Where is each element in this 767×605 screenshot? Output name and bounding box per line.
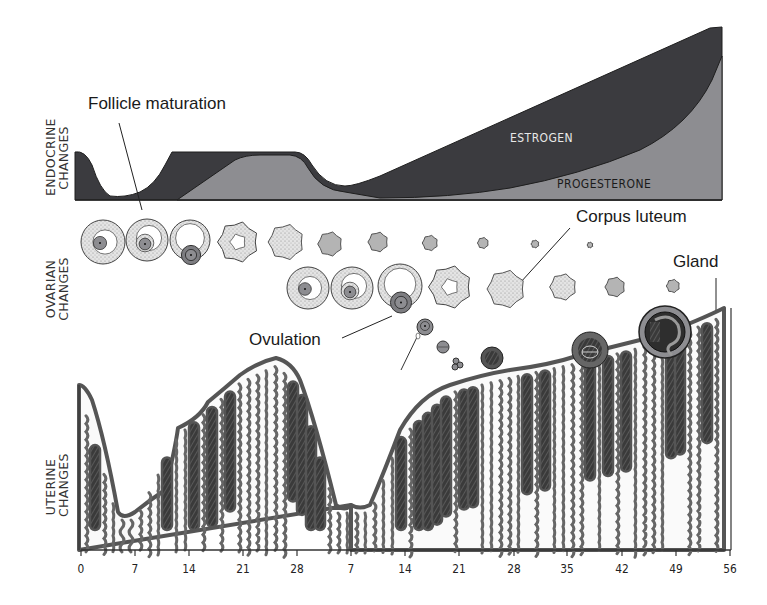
- blood-vessel-icon: [248, 379, 250, 555]
- gland-annotation: Gland: [673, 252, 718, 272]
- x-axis-tick-label: 14: [182, 561, 196, 576]
- blood-vessel-icon: [563, 367, 564, 551]
- follicle-cl: [477, 238, 488, 249]
- x-axis-tick-label: 14: [398, 561, 412, 576]
- follicle-cl: [531, 240, 539, 248]
- follicle-cl: [666, 279, 679, 292]
- blood-vessel-icon: [266, 371, 267, 555]
- blood-vessel-icon: [257, 375, 259, 551]
- follicle-ruptured: [429, 266, 470, 308]
- follicle-cl: [268, 225, 302, 260]
- blood-vessel-icon: [689, 331, 691, 555]
- blood-vessel-icon: [176, 440, 177, 552]
- follicle-cl: [318, 232, 341, 256]
- gland-icon: [441, 397, 451, 517]
- gland-icon: [396, 437, 406, 530]
- gland-icon: [162, 457, 172, 530]
- follicle-cl: [487, 270, 523, 307]
- ovulated-egg: [401, 319, 463, 370]
- follicle-follicle3: [378, 264, 422, 313]
- follicle-maturation-annotation: Follicle maturation: [88, 94, 226, 114]
- follicle-cl: [368, 232, 387, 252]
- gland-icon: [189, 422, 199, 530]
- ovulation-leader: [342, 316, 392, 338]
- x-axis-tick-label: 0: [78, 561, 85, 576]
- ovarian-label-line2: CHANGES: [57, 253, 70, 325]
- blood-vessel-icon: [500, 381, 502, 557]
- gland-icon: [90, 445, 100, 530]
- blood-vessel-icon: [374, 503, 376, 551]
- follicle-cl: [550, 274, 576, 300]
- blood-vessel-icon: [599, 358, 600, 550]
- blood-vessel-icon: [347, 513, 348, 553]
- gland-icon: [540, 371, 550, 491]
- follicle-follicle2: [126, 219, 168, 261]
- blood-vessel-icon: [635, 349, 636, 557]
- gland-icon: [603, 356, 613, 476]
- x-axis-tick-label: 7: [348, 561, 355, 576]
- diagram-canvas: [0, 0, 767, 605]
- ovarian-follicles: [81, 219, 679, 313]
- ovarian-section-label: OVARIAN CHANGES: [44, 253, 70, 325]
- blood-vessel-icon: [383, 481, 384, 553]
- menstrual-cycle-diagram: ENDOCRINE CHANGES OVARIAN CHANGES UTERIN…: [0, 0, 767, 605]
- blood-vessel-icon: [518, 376, 519, 552]
- endocrine-label-line2: CHANGES: [57, 120, 70, 196]
- blood-vessel-icon: [509, 378, 511, 554]
- blood-vessel-icon: [365, 513, 366, 553]
- gland-icon: [315, 457, 325, 530]
- follicle-follicle2: [331, 267, 373, 309]
- x-axis-tick-label: 28: [290, 561, 304, 576]
- x-axis-tick-label: 35: [560, 561, 574, 576]
- gland-icon: [585, 361, 595, 481]
- gland-icon: [468, 387, 478, 507]
- corpus-luteum-annotation: Corpus luteum: [576, 207, 687, 227]
- blood-vessel-icon: [455, 392, 457, 552]
- blood-vessel-icon: [581, 363, 583, 555]
- blood-vessel-icon: [392, 458, 393, 554]
- gland-icon: [702, 323, 712, 443]
- uterine-endometrium: [79, 306, 731, 557]
- endocrine-section-label: ENDOCRINE CHANGES: [44, 120, 70, 196]
- blood-vessel-icon: [572, 365, 574, 557]
- progesterone-label: PROGESTERONE: [557, 177, 651, 191]
- blood-vessel-icon: [698, 327, 700, 551]
- blood-vessel-icon: [410, 429, 412, 557]
- blood-vessel-icon: [491, 383, 492, 551]
- blood-vessel-icon: [338, 513, 340, 553]
- x-axis-tick-label: 21: [236, 561, 250, 576]
- gland-icon: [522, 374, 532, 494]
- uterine-label-line2: CHANGES: [57, 457, 70, 517]
- blood-vessel-icon: [554, 369, 555, 553]
- x-axis-tick-label: 21: [452, 561, 466, 576]
- blood-vessel-icon: [644, 347, 646, 555]
- x-axis-tick-label: 42: [615, 561, 629, 576]
- ovulation-annotation: Ovulation: [249, 330, 321, 350]
- blood-vessel-icon: [158, 475, 159, 555]
- follicle-ruptured: [218, 222, 257, 262]
- gland-icon: [207, 407, 217, 527]
- x-axis-tick-label: 28: [507, 561, 521, 576]
- follicle-cl: [605, 277, 624, 297]
- follicle-cl: [422, 235, 437, 250]
- blood-vessel-icon: [185, 430, 186, 550]
- gland-icon: [225, 392, 235, 512]
- blood-vessel-icon: [662, 342, 663, 550]
- follicle-follicle: [81, 220, 125, 264]
- blood-vessel-icon: [113, 504, 114, 552]
- blood-vessel-icon: [149, 493, 151, 557]
- blood-vessel-icon: [482, 385, 483, 553]
- follicle-cl: [587, 242, 593, 248]
- blood-vessel-icon: [653, 345, 655, 553]
- gland-icon: [621, 352, 631, 472]
- x-axis-tick-label: 7: [132, 561, 139, 576]
- uterine-section-label: UTERINE CHANGES: [44, 457, 70, 517]
- follicle-follicle: [287, 267, 329, 309]
- blood-vessel-icon: [329, 489, 331, 553]
- follicle-follicle3: [170, 220, 210, 265]
- x-axis-tick-label: 49: [669, 561, 683, 576]
- estrogen-label: ESTROGEN: [510, 131, 573, 145]
- x-axis-tick-label: 56: [723, 561, 737, 576]
